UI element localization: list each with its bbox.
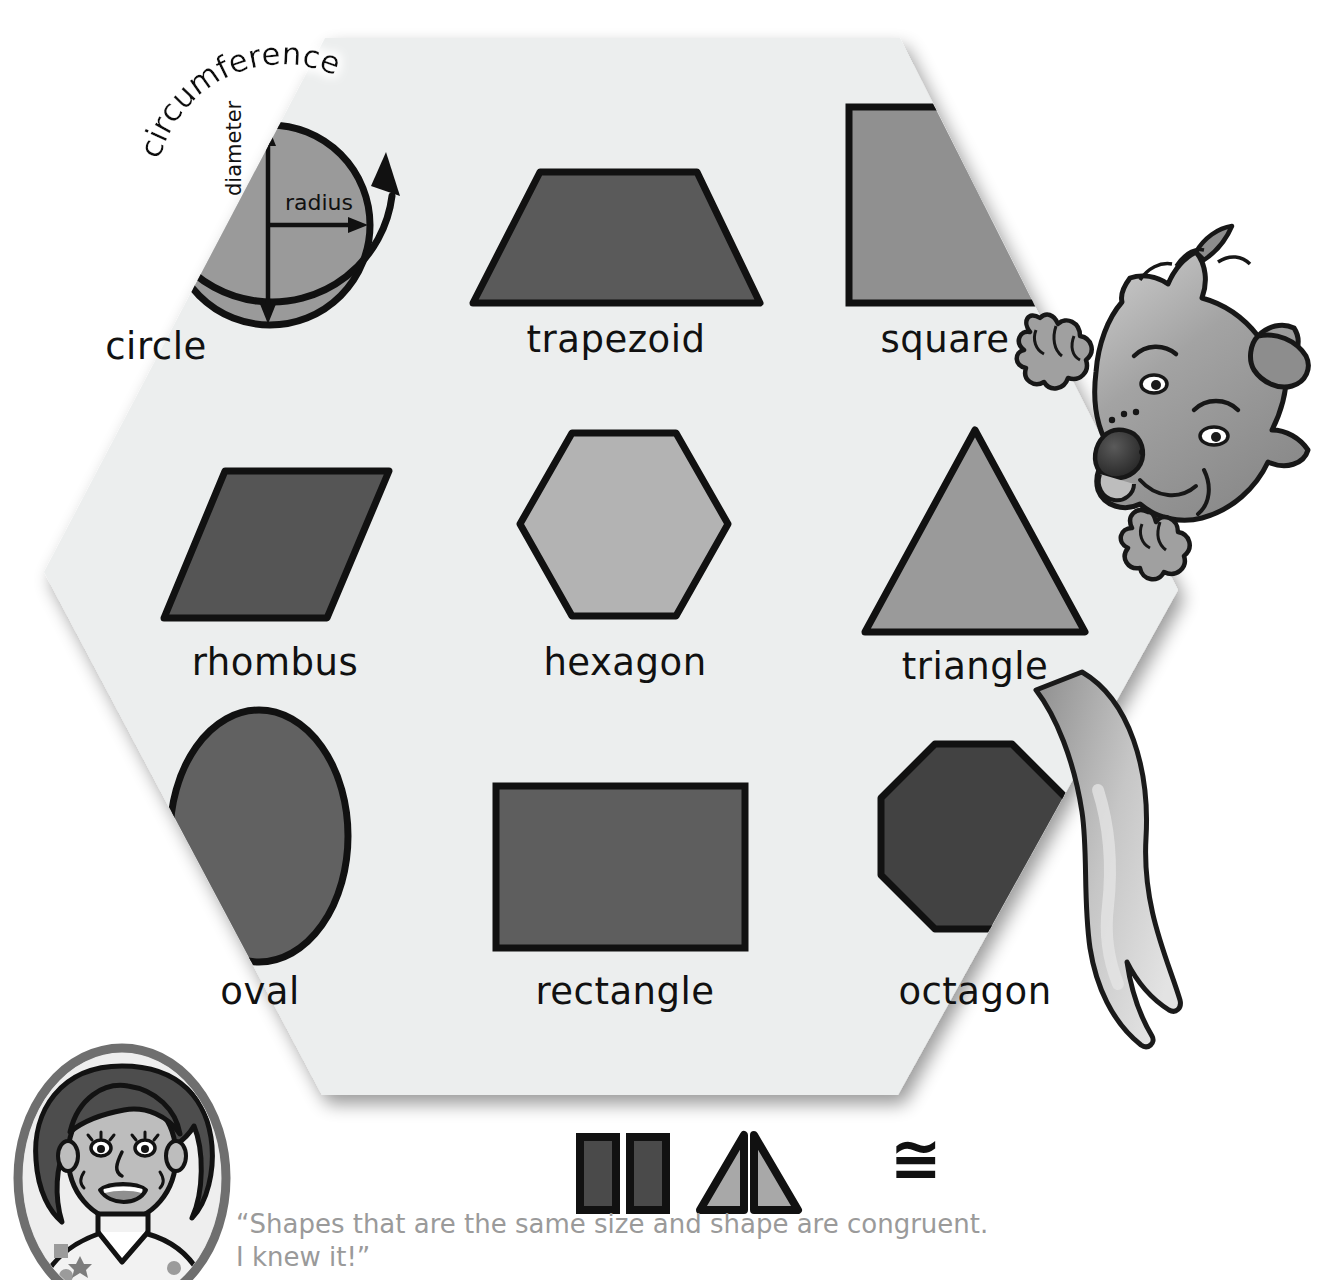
- congruent-triangle-2: [754, 1135, 798, 1210]
- caption: “Shapes that are the same size and shape…: [236, 1208, 1036, 1274]
- congruent-bar-2: [630, 1137, 666, 1210]
- label-trapezoid: trapezoid: [496, 318, 736, 361]
- label-circle: circle: [96, 325, 216, 368]
- radius-label: radius: [285, 190, 353, 215]
- label-hexagon: hexagon: [505, 641, 745, 684]
- congruent-triangle-1: [700, 1135, 744, 1210]
- label-square: square: [845, 318, 1045, 361]
- congruent-bar-1: [580, 1137, 616, 1210]
- poster-scene: circumference radius diameter circle tra…: [0, 0, 1337, 1280]
- shape-oval: [170, 710, 348, 962]
- label-oval: oval: [180, 970, 340, 1013]
- teacher-portrait: [14, 1048, 230, 1280]
- shape-rectangle: [496, 786, 745, 948]
- congruent-symbol: ≅: [890, 1128, 942, 1190]
- poster-artwork: [0, 0, 1337, 1280]
- congruent-examples: [580, 1135, 798, 1210]
- caption-line-1: “Shapes that are the same size and shape…: [236, 1208, 1036, 1241]
- caption-line-2: I knew it!”: [236, 1241, 1036, 1274]
- shape-octagon: [881, 744, 1066, 929]
- label-octagon: octagon: [855, 970, 1095, 1013]
- label-rhombus: rhombus: [155, 641, 395, 684]
- label-triangle: triangle: [855, 645, 1095, 688]
- label-rectangle: rectangle: [500, 970, 750, 1013]
- shape-square: [849, 107, 1040, 303]
- diameter-label: diameter: [222, 101, 246, 196]
